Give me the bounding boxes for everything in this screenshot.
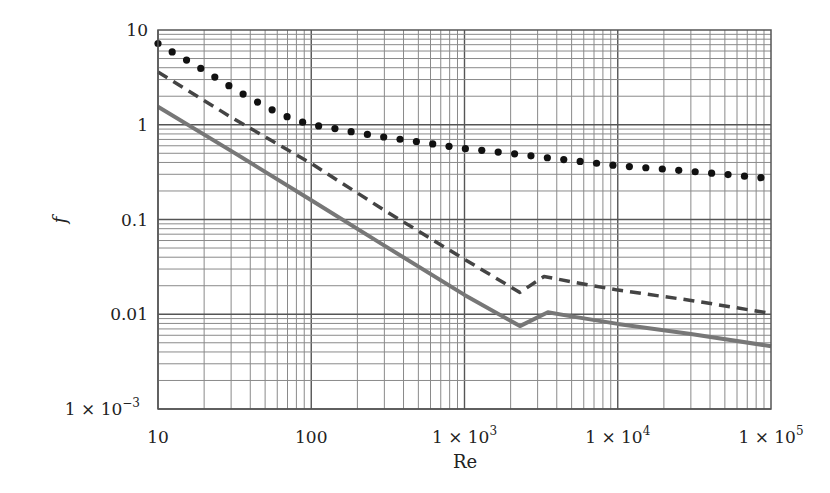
data-point: [169, 48, 176, 55]
data-point: [495, 148, 502, 155]
y-axis-ticks: 1010.10.011 × 10−3: [65, 20, 148, 419]
data-point: [642, 164, 649, 171]
grid: [158, 30, 771, 409]
data-point: [348, 128, 355, 135]
y-tick-label: 1 × 10−3: [65, 396, 140, 419]
x-axis-ticks: 101001 × 1031 × 1041 × 105: [147, 424, 803, 447]
data-point: [511, 150, 518, 157]
data-point: [396, 136, 403, 143]
data-point: [560, 156, 567, 163]
x-tick-label: 1 × 104: [585, 424, 651, 447]
data-point: [544, 154, 551, 161]
data-point: [445, 143, 452, 150]
data-point: [183, 56, 190, 63]
data-point: [283, 113, 290, 120]
data-point: [692, 168, 699, 175]
data-point: [331, 125, 338, 132]
x-tick-label: 1 × 105: [738, 424, 803, 447]
y-axis-label: f: [49, 213, 70, 225]
data-point: [239, 90, 246, 97]
data-point: [741, 173, 748, 180]
data-point: [626, 163, 633, 170]
data-point: [211, 73, 218, 80]
x-tick-label: 10: [147, 427, 169, 447]
x-tick-label: 1 × 103: [432, 424, 497, 447]
x-tick-label: 100: [295, 427, 327, 447]
friction-factor-chart: 101001 × 1031 × 1041 × 105 1010.10.011 ×…: [0, 0, 830, 493]
y-tick-label: 0.01: [110, 304, 148, 324]
data-point: [724, 171, 731, 178]
data-point: [197, 65, 204, 72]
y-tick-label: 1: [137, 115, 148, 135]
data-point: [527, 152, 534, 159]
data-point: [708, 170, 715, 177]
data-point: [757, 174, 764, 181]
data-point: [478, 147, 485, 154]
data-point: [413, 138, 420, 145]
data-point: [577, 158, 584, 165]
data-point: [593, 160, 600, 167]
data-point: [299, 119, 306, 126]
data-point: [315, 122, 322, 129]
data-point: [609, 162, 616, 169]
data-point: [429, 140, 436, 147]
y-tick-label: 0.1: [121, 210, 148, 230]
data-point: [254, 99, 261, 106]
y-tick-label: 10: [126, 20, 148, 40]
x-axis-label: Re: [453, 451, 477, 472]
data-series: [154, 40, 771, 346]
data-point: [225, 82, 232, 89]
data-point: [675, 167, 682, 174]
data-point: [364, 131, 371, 138]
data-point: [462, 145, 469, 152]
data-point: [269, 106, 276, 113]
data-point: [659, 165, 666, 172]
data-point: [380, 133, 387, 140]
